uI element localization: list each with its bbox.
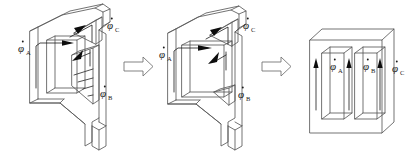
label-phi-c-symbol: φ — [107, 19, 113, 31]
label-phi-a-dot — [163, 47, 165, 49]
panel-1-label-phi-c: φ C — [107, 18, 119, 33]
panel-3-label-phi-c: φ C — [392, 61, 404, 76]
label-phi-a-subscript: A — [167, 55, 172, 62]
flux-transformation-figure: φ A φ C φ B — [0, 0, 410, 156]
panel-3-label-phi-a: φ A — [330, 59, 343, 74]
label-phi-a-subscript: A — [338, 67, 343, 74]
panel-2-label-phi-c: φ C — [243, 18, 255, 33]
label-phi-a-symbol: φ — [159, 48, 165, 60]
label-phi-c-dot — [111, 18, 113, 20]
panel-2-label-phi-a: φ A — [159, 47, 172, 62]
transform-arrow-2 — [262, 57, 291, 76]
label-phi-c-subscript: C — [251, 26, 255, 33]
label-phi-a-symbol: φ — [330, 60, 336, 72]
label-phi-a-dot — [22, 41, 24, 43]
label-phi-b-symbol: φ — [363, 60, 369, 72]
panel-2-unfolded-core: φ A φ C φ B — [159, 6, 255, 150]
label-phi-a-dot — [334, 59, 336, 61]
panel-1-label-phi-a: φ A — [18, 41, 31, 56]
label-phi-b-subscript: B — [371, 67, 376, 74]
label-phi-a-subscript: A — [26, 49, 31, 56]
panel-3-label-phi-b: φ B — [363, 59, 376, 74]
label-phi-b-symbol: φ — [238, 88, 244, 100]
label-phi-b-dot — [242, 87, 244, 89]
label-phi-b-dot — [104, 86, 106, 88]
panel-3-planar-core: φ A φ B φ C — [310, 29, 404, 133]
label-phi-c-subscript: C — [115, 26, 119, 33]
label-phi-b-symbol: φ — [100, 87, 106, 99]
panel-1-skewed-core: φ A φ C φ B — [18, 4, 119, 150]
label-phi-a-symbol: φ — [18, 42, 24, 54]
label-phi-c-symbol: φ — [243, 19, 249, 31]
figure-canvas: φ A φ C φ B — [0, 0, 410, 156]
panel-1-label-phi-b: φ B — [100, 86, 113, 101]
transform-arrow-1 — [124, 57, 153, 76]
label-phi-c-dot — [247, 18, 249, 20]
label-phi-b-subscript: B — [108, 94, 113, 101]
label-phi-b-subscript: B — [246, 95, 251, 102]
label-phi-c-dot — [396, 61, 398, 63]
label-phi-c-subscript: C — [400, 69, 404, 76]
panel-2-label-phi-b: φ B — [238, 87, 251, 102]
label-phi-b-dot — [367, 59, 369, 61]
label-phi-c-symbol: φ — [392, 62, 398, 74]
